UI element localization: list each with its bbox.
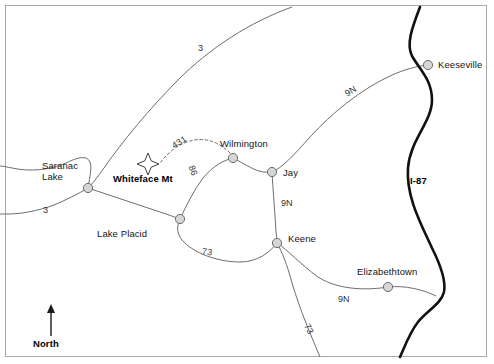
- city-node-keeseville[interactable]: [423, 60, 432, 69]
- road-route-9n-jay-keeseville: [272, 65, 428, 172]
- city-label-keene: Keene: [288, 233, 316, 244]
- city-node-keene[interactable]: [272, 238, 281, 247]
- city-label-elizabethtown: Elizabethtown: [357, 266, 417, 277]
- reference-map-figure: Saranac Lake Lake Placid Wilmington Jay …: [0, 0, 494, 364]
- compass-label-north: North: [33, 338, 59, 349]
- route-label-9n-elizabethtown: 9N: [338, 294, 350, 305]
- route-label-9n-jay-keene: 9N: [281, 198, 293, 209]
- city-node-jay[interactable]: [267, 167, 276, 176]
- road-route-86-wilmington-jay: [233, 158, 272, 172]
- city-label-keeseville: Keeseville: [438, 59, 482, 70]
- city-label-saranac-lake-line2: Lake: [42, 171, 78, 182]
- city-node-lake-placid[interactable]: [175, 214, 184, 223]
- city-label-saranac-lake: Saranac Lake: [42, 160, 78, 182]
- city-node-wilmington[interactable]: [228, 153, 237, 162]
- road-route-73-keene-south: [277, 243, 320, 357]
- city-label-saranac-lake-line1: Saranac: [42, 160, 78, 171]
- city-label-lake-placid: Lake Placid: [97, 228, 147, 239]
- road-route-9n-jay-keene: [272, 172, 277, 243]
- city-node-saranac-lake[interactable]: [83, 183, 92, 192]
- road-route-3-corridor: [88, 7, 292, 188]
- route-label-3-north: 3: [198, 43, 203, 54]
- city-node-elizabethtown[interactable]: [383, 282, 392, 291]
- whiteface-peak-star-icon: [137, 153, 159, 175]
- road-route-86-saranac-placid: [88, 188, 180, 219]
- road-route-73-placid-keene: [178, 219, 277, 262]
- north-arrow-head-icon: [47, 304, 55, 313]
- peak-label-whiteface-mt: Whiteface Mt: [113, 173, 173, 184]
- city-label-jay: Jay: [283, 167, 298, 178]
- route-label-73-placid-keene: 73: [201, 246, 213, 259]
- interstate-label-i-87: I-87: [410, 175, 427, 186]
- route-label-3-west: 3: [43, 205, 48, 216]
- city-label-wilmington: Wilmington: [220, 138, 268, 149]
